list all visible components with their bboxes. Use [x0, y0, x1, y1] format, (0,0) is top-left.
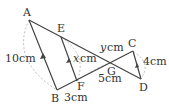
label-e: E: [57, 22, 65, 35]
geometry-figure: A E C G D B F 10cm x cm y cm 4cm 3cm 5cm: [0, 0, 169, 109]
length-gc-var: y: [99, 41, 107, 54]
label-c: C: [128, 37, 136, 50]
length-gc-unit: cm: [107, 41, 124, 54]
length-bf: 3cm: [64, 91, 88, 104]
length-ef-unit: cm: [80, 52, 97, 65]
length-ab: 10cm: [5, 52, 36, 65]
length-ef-var: x: [73, 52, 80, 65]
label-a: A: [22, 6, 32, 19]
length-fg: 5cm: [98, 72, 122, 85]
label-d: D: [139, 81, 148, 94]
label-b: B: [51, 92, 59, 105]
parallel-arrow-cd-icon: [135, 63, 139, 68]
length-cd: 4cm: [143, 55, 167, 68]
parallel-arrow-ab-icon: [40, 53, 46, 59]
line-ad: [29, 20, 141, 79]
